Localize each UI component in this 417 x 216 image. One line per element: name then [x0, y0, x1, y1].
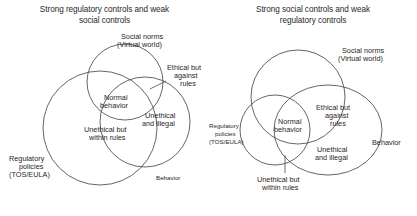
- panel-right-venn: Social norms (Virtual world) Regulatory …: [209, 0, 417, 216]
- label-normal-behavior-line2: behavior: [100, 101, 129, 110]
- label-unethical-and-illegal-line2: and illegal: [315, 153, 348, 162]
- label-behavior: Behavior: [372, 138, 401, 147]
- label-behavior: Behavior: [156, 174, 180, 181]
- panel-left: Strong regulatory controls and weak soci…: [0, 0, 209, 216]
- label-unethical-and-illegal-line2: and illegal: [142, 119, 175, 128]
- leader-line-ethical-but-against-rules: [150, 81, 166, 89]
- label-regulatory-policies-line3: (TOS/EULA): [9, 170, 50, 179]
- label-unethical-but-within-rules-line2: within rules: [88, 133, 126, 142]
- label-social-norms-line2: (Virtual world): [117, 40, 162, 49]
- label-regulatory-policies-line2: policies: [215, 130, 236, 137]
- label-social-norms-line2: (Virtual world): [338, 54, 383, 63]
- label-regulatory-policies-line1: Regulatory: [209, 122, 240, 129]
- panel-right: Strong social controls and weak regulato…: [209, 0, 417, 216]
- label-regulatory-policies-line3: (TOS/EULA): [209, 138, 244, 145]
- label-ethical-but-against-rules-line3: rules: [180, 79, 196, 88]
- label-unethical-but-within-rules-line2: within rules: [261, 183, 299, 192]
- label-normal-behavior-line2: behavior: [274, 125, 303, 134]
- panel-left-venn: Social norms (Virtual world) Regulatory …: [0, 0, 209, 216]
- venn-figure: Strong regulatory controls and weak soci…: [0, 0, 417, 216]
- label-ethical-but-against-rules-line3: rules: [330, 119, 346, 128]
